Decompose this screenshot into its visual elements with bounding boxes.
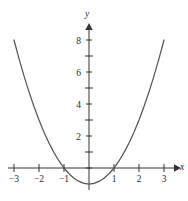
y-axis-arrow-icon — [85, 23, 92, 30]
y-tick-label-6: 6 — [70, 69, 81, 79]
graph-figure: · · · · · · · — [0, 0, 188, 201]
x-tick-label-neg2: −2 — [31, 175, 47, 185]
x-tick-label-1: 1 — [109, 175, 119, 185]
x-tick-label-neg3: −3 — [6, 175, 22, 185]
y-axis-label: y — [85, 10, 89, 20]
parabola-plot — [0, 0, 188, 201]
x-tick-label-2: 2 — [134, 175, 144, 185]
y-tick-label-2: 2 — [70, 133, 81, 143]
y-tick-label-8: 8 — [70, 37, 81, 47]
x-tick-label-3: 3 — [159, 175, 169, 185]
x-axis-label: x — [180, 163, 184, 173]
y-tick-label-4: 4 — [70, 101, 81, 111]
x-tick-label-neg1: −1 — [56, 175, 72, 185]
